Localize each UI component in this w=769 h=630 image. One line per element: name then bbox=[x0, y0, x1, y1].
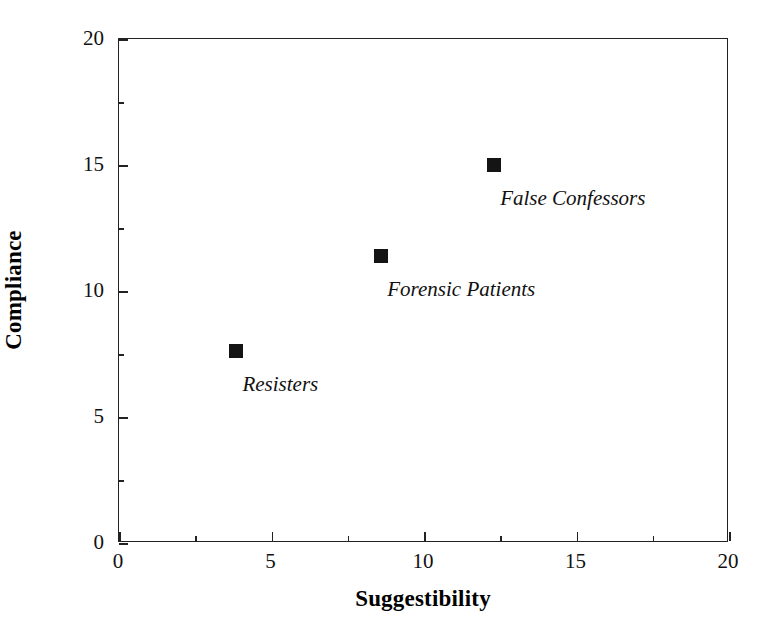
x-axis-tick-minor bbox=[500, 536, 502, 541]
y-axis-tick-label: 10 bbox=[83, 280, 104, 301]
x-axis-tick-major bbox=[729, 532, 731, 541]
y-axis-tick-major bbox=[119, 543, 128, 545]
x-axis-tick-label: 20 bbox=[718, 551, 739, 572]
y-axis-title: Compliance bbox=[1, 230, 27, 350]
y-axis-tick-minor bbox=[119, 102, 124, 104]
x-axis-tick-minor bbox=[348, 536, 350, 541]
data-point-marker bbox=[229, 344, 243, 358]
y-axis-tick-label: 15 bbox=[83, 154, 104, 175]
y-axis-tick-minor bbox=[119, 228, 124, 230]
data-point-marker bbox=[374, 249, 388, 263]
data-point-label: Resisters bbox=[242, 374, 318, 395]
y-axis-tick-major bbox=[119, 417, 128, 419]
y-axis-tick-label: 20 bbox=[83, 28, 104, 49]
x-axis-tick-label: 0 bbox=[113, 551, 124, 572]
y-axis-tick-major bbox=[119, 165, 128, 167]
y-axis-tick-label: 5 bbox=[94, 406, 105, 427]
y-axis-tick-minor bbox=[119, 354, 124, 356]
scatter-chart-figure: Compliance Suggestibility ResistersForen… bbox=[0, 0, 769, 630]
y-axis-tick-major bbox=[119, 39, 128, 41]
x-axis-tick-label: 5 bbox=[265, 551, 276, 572]
data-point-marker bbox=[487, 158, 501, 172]
y-axis-tick-label: 0 bbox=[94, 532, 105, 553]
data-point-label: False Confessors bbox=[500, 188, 645, 209]
plot-area: ResistersForensic PatientsFalse Confesso… bbox=[118, 38, 728, 542]
x-axis-tick-label: 10 bbox=[413, 551, 434, 572]
x-axis-title: Suggestibility bbox=[118, 586, 728, 612]
x-axis-tick-minor bbox=[195, 536, 197, 541]
x-axis-tick-minor bbox=[653, 536, 655, 541]
x-axis-tick-major bbox=[119, 532, 121, 541]
x-axis-tick-label: 15 bbox=[565, 551, 586, 572]
data-point-label: Forensic Patients bbox=[387, 278, 535, 299]
y-axis-tick-major bbox=[119, 291, 128, 293]
y-axis-tick-minor bbox=[119, 480, 124, 482]
x-axis-tick-major bbox=[424, 532, 426, 541]
x-axis-tick-major bbox=[272, 532, 274, 541]
x-axis-tick-major bbox=[577, 532, 579, 541]
